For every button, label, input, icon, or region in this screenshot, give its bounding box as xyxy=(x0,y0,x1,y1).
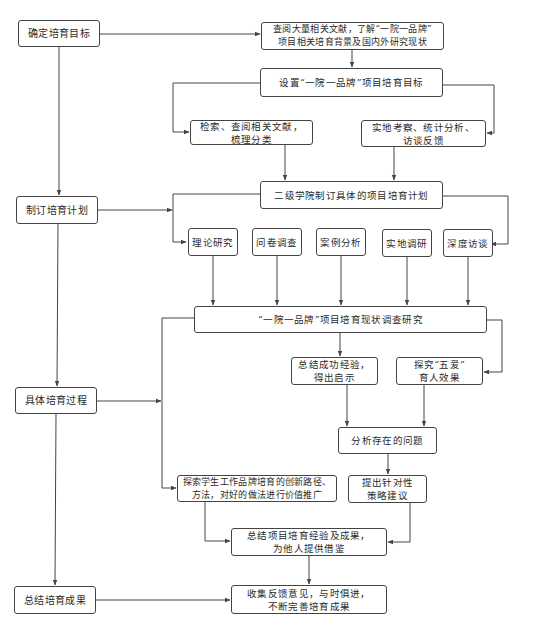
node-text: 实地考察、统计分析、 访谈反馈 xyxy=(372,121,475,147)
node-text: 提出针对性 策略建议 xyxy=(362,476,414,502)
node-text: 案例分析 xyxy=(320,236,361,249)
node-text: “一院一品牌”项目培育现状调查研究 xyxy=(258,313,423,326)
node-set-goal: 设置“一院一品牌”项目培育目标 xyxy=(260,68,443,97)
node-status-research: “一院一品牌”项目培育现状调查研究 xyxy=(194,306,487,333)
node-field-stats: 实地考察、统计分析、 访谈反馈 xyxy=(361,120,486,147)
node-text: 检索、查阅相关文献， 梳理分类 xyxy=(200,120,303,146)
node-method-theory: 理论研究 xyxy=(188,228,238,256)
node-literature-review: 查阅大量相关文献，了解“一院一品牌” 项目相关培育背景及国内外研究现状 xyxy=(261,22,444,50)
flowchart: 确定培育目标 制订培育计划 具体培育过程 总结培育成果 查阅大量相关文献，了解“… xyxy=(0,0,534,634)
node-method-interview: 深度访谈 xyxy=(443,229,493,257)
node-method-field: 实地调研 xyxy=(382,229,432,257)
node-text: 收集反馈意见，与时俱进， 不断完善培育成果 xyxy=(247,587,371,613)
node-text: 总结项目培育经验及成果， 为他人提供借鉴 xyxy=(247,529,371,555)
node-propose-strategies: 提出针对性 策略建议 xyxy=(348,475,427,503)
node-collect-feedback: 收集反馈意见，与时俱进， 不断完善培育成果 xyxy=(231,585,387,614)
stage-label: 制订培育计划 xyxy=(26,204,88,217)
node-text: 查阅大量相关文献，了解“一院一品牌” 项目相关培育背景及国内外研究现状 xyxy=(273,23,432,49)
node-method-survey: 问卷调查 xyxy=(252,228,302,256)
stage-summarize: 总结培育成果 xyxy=(14,586,96,614)
node-explore-five-love: 探究“五爱” 育人效果 xyxy=(396,357,483,385)
node-text: 分析存在的问题 xyxy=(351,434,423,447)
stage-label: 确定培育目标 xyxy=(28,27,90,40)
node-text: 二级学院制订具体的项目培育计划 xyxy=(274,189,429,202)
stage-label: 总结培育成果 xyxy=(24,594,86,607)
node-text: 问卷调查 xyxy=(256,236,297,249)
stage-make-plan: 制订培育计划 xyxy=(16,196,98,224)
node-text: 理论研究 xyxy=(192,236,233,249)
node-summarize-results: 总结项目培育经验及成果， 为他人提供借鉴 xyxy=(231,528,387,556)
stage-label: 具体培育过程 xyxy=(25,394,87,407)
node-method-case: 案例分析 xyxy=(316,228,366,256)
node-text: 深度访谈 xyxy=(447,237,488,250)
node-plan: 二级学院制订具体的项目培育计划 xyxy=(260,181,443,209)
node-search-classify: 检索、查阅相关文献， 梳理分类 xyxy=(190,120,313,145)
node-text: 实地调研 xyxy=(386,237,427,250)
node-analyze-problems: 分析存在的问题 xyxy=(338,427,437,454)
node-text: 探索学生工作品牌培育的创新路径、 方法，对好的做法进行价值推广 xyxy=(183,476,332,502)
node-text: 设置“一院一品牌”项目培育目标 xyxy=(279,76,423,89)
stage-set-goals: 确定培育目标 xyxy=(18,20,100,47)
node-explore-paths: 探索学生工作品牌培育的创新路径、 方法，对好的做法进行价值推广 xyxy=(177,475,337,502)
node-text: 总结成功经验， 得出启示 xyxy=(298,358,370,384)
node-text: 探究“五爱” 育人效果 xyxy=(414,358,466,384)
stage-process: 具体培育过程 xyxy=(15,387,97,414)
node-summarize-experience: 总结成功经验， 得出启示 xyxy=(291,357,378,385)
